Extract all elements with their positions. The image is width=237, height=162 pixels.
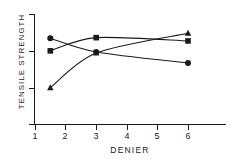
data-point-circle — [47, 35, 53, 41]
series-line-circle — [50, 38, 188, 63]
chart-screenshot: TENSILE STRENGTH 1 2 3 4 5 6 DENIER — [0, 0, 237, 162]
series-layer — [50, 33, 188, 87]
x-axis-label: DENIER — [34, 145, 226, 155]
marker-layer — [47, 30, 191, 90]
data-point-square — [93, 35, 99, 41]
series-line-square — [50, 37, 188, 51]
data-point-triangle — [185, 30, 191, 36]
data-point-square — [185, 38, 191, 44]
plot-area — [0, 0, 237, 162]
data-point-circle — [185, 60, 191, 66]
data-point-square — [48, 48, 54, 54]
